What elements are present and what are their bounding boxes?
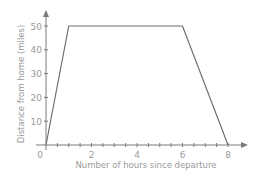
x-axis-ticks: 2468 [57,143,231,160]
y-axis-title: Distance from home (miles) [16,25,26,143]
x-tick-label: 2 [89,150,95,160]
x-axis-arrow-icon [241,142,248,148]
distance-line [46,26,228,145]
y-tick-label: 20 [31,93,43,103]
y-tick-label: 50 [31,22,43,32]
y-tick-label: 30 [31,69,43,79]
origin-label: 0 [37,150,43,160]
x-axis-title: Number of hours since departure [75,160,216,170]
x-tick-label: 6 [180,150,186,160]
y-tick-label: 10 [31,117,43,127]
x-tick-label: 4 [134,150,140,160]
y-axis-ticks: 1020304050 [31,22,48,127]
y-tick-label: 40 [31,45,43,55]
distance-time-chart: 2468 1020304050 0 Number of hours since … [0,0,255,189]
x-tick-label: 8 [225,150,231,160]
y-axis-arrow-icon [43,10,49,17]
